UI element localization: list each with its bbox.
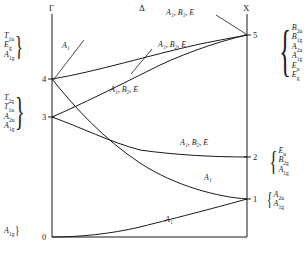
term-list: T1u Eg A1g	[4, 31, 14, 59]
term-list: Eu B2g A1g	[278, 146, 288, 174]
leader-a1b1e-to-5	[216, 15, 246, 34]
gamma-terms-lower: A1g }	[4, 226, 22, 236]
term-item: B2g	[278, 155, 288, 164]
axis-number-0: 0	[42, 233, 46, 242]
brace-right-icon: }	[15, 94, 25, 130]
diagram-canvas	[0, 0, 307, 253]
term-list: A1g	[4, 226, 14, 235]
curve-3-to-2	[52, 117, 247, 157]
term-list: A2u A1g	[274, 190, 284, 209]
term-item: Eg	[4, 40, 14, 49]
term-list: T2g T1u A2u A1g	[4, 93, 14, 131]
axis-number-3: 3	[42, 113, 46, 122]
label-a1-b2-e-right: A₁, B₂, E	[180, 139, 208, 147]
term-item: A1g	[292, 51, 302, 60]
gamma-point: Γ	[49, 4, 54, 13]
brace-right-icon: }	[15, 32, 23, 59]
term-item: A2u	[292, 42, 302, 51]
label-a1-middle: A₁	[204, 174, 212, 182]
term-item: A1g	[4, 50, 14, 59]
axis-number-1: 1	[253, 195, 257, 204]
gamma-terms-middle: T2g T1u A2u A1g }	[4, 93, 35, 131]
label-a1-b1-e-top: A₁, B₁, E	[166, 9, 194, 17]
brace-right-icon: }	[15, 226, 19, 236]
term-item: A1g	[274, 199, 284, 208]
x-terms-level-5: { B2u B1g A2u A1g Eu Eg	[263, 23, 302, 79]
label-a1-b2-e-upper: A₁, B₂, E	[158, 41, 186, 49]
term-item: A2u	[274, 190, 284, 199]
term-item: T1u	[4, 31, 14, 40]
term-item: B1g	[292, 32, 302, 41]
energy-correlation-diagram: Γ Δ X 4 3 0 5 2 1 T1u Eg A1g } T2g T1u A…	[0, 0, 307, 253]
term-item: A2u	[4, 112, 14, 121]
label-a1-bottom: A₁	[165, 216, 173, 224]
axis-number-5: 5	[253, 31, 257, 40]
term-item: B2u	[292, 23, 302, 32]
x-terms-level-2: { Eu B2g A1g	[263, 146, 289, 174]
brace-left-icon: {	[267, 190, 273, 208]
gamma-terms-upper: T1u Eg A1g }	[4, 31, 30, 59]
curve-4-to-1	[52, 79, 247, 199]
curve-0-to-1	[52, 199, 247, 237]
x-terms-level-1: { A2u A1g	[263, 190, 284, 209]
axis-number-4: 4	[42, 75, 46, 84]
term-item: Eg	[292, 70, 302, 79]
delta-point: Δ	[139, 4, 145, 13]
term-list: B2u B1g A2u A1g Eu Eg	[292, 23, 302, 79]
term-item: Eu	[292, 61, 302, 70]
term-item: Eu	[278, 146, 288, 155]
axis-number-2: 2	[253, 153, 257, 162]
curve-4-to-5	[52, 35, 247, 79]
x-point: X	[243, 4, 250, 13]
term-item: A1g	[278, 165, 288, 174]
brace-left-icon: {	[279, 25, 291, 77]
term-item: A1g	[4, 121, 14, 130]
label-a1-branch-gamma: A₁	[62, 42, 70, 50]
curve-3-to-5	[52, 35, 247, 117]
brace-left-icon: {	[269, 147, 277, 174]
term-item: T1u	[4, 102, 14, 111]
term-item: T2g	[4, 93, 14, 102]
label-a1-b2-e-mid: A₁, B₂, E	[110, 86, 138, 94]
term-item: A1g	[4, 226, 14, 235]
